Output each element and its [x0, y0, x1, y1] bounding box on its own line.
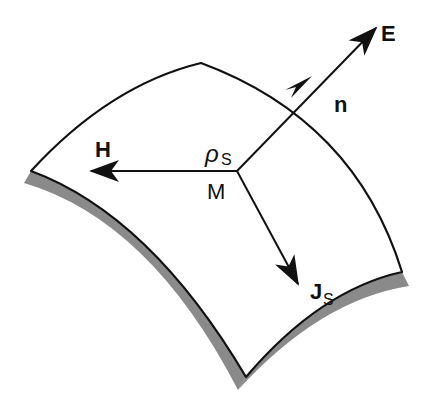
label-j: J: [310, 279, 322, 304]
label-rho: ρ: [204, 140, 219, 167]
label-n: n: [334, 92, 347, 117]
surface-diagram: E n H ρ S M J S: [0, 0, 427, 409]
label-h: H: [95, 137, 111, 162]
label-rho-subscript: S: [221, 151, 232, 168]
label-m: M: [207, 179, 225, 204]
label-e: E: [381, 21, 396, 46]
label-j-subscript: S: [323, 291, 334, 308]
